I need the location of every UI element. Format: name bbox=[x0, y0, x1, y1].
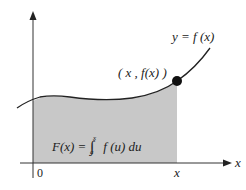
x-tick-label: x bbox=[174, 166, 180, 179]
point-marker bbox=[172, 76, 182, 86]
origin-label: 0 bbox=[37, 167, 43, 179]
formula-integrand: f (u) du bbox=[103, 139, 141, 154]
curve-label: y = f (x) bbox=[172, 30, 214, 43]
x-axis-label: x bbox=[235, 156, 241, 169]
y-axis-arrow-icon bbox=[30, 11, 37, 20]
accumulation-diagram: y = f (x) ( x , f(x) ) F(x) = ∫xa f (u) … bbox=[0, 0, 246, 190]
x-axis-arrow-icon bbox=[223, 160, 232, 167]
formula-lhs: F(x) = bbox=[52, 139, 86, 154]
point-label: ( x , f(x) ) bbox=[118, 66, 167, 79]
upper-limit: x bbox=[93, 135, 96, 142]
lower-limit: a bbox=[90, 149, 94, 156]
integral-formula: F(x) = ∫xa f (u) du bbox=[52, 138, 142, 154]
